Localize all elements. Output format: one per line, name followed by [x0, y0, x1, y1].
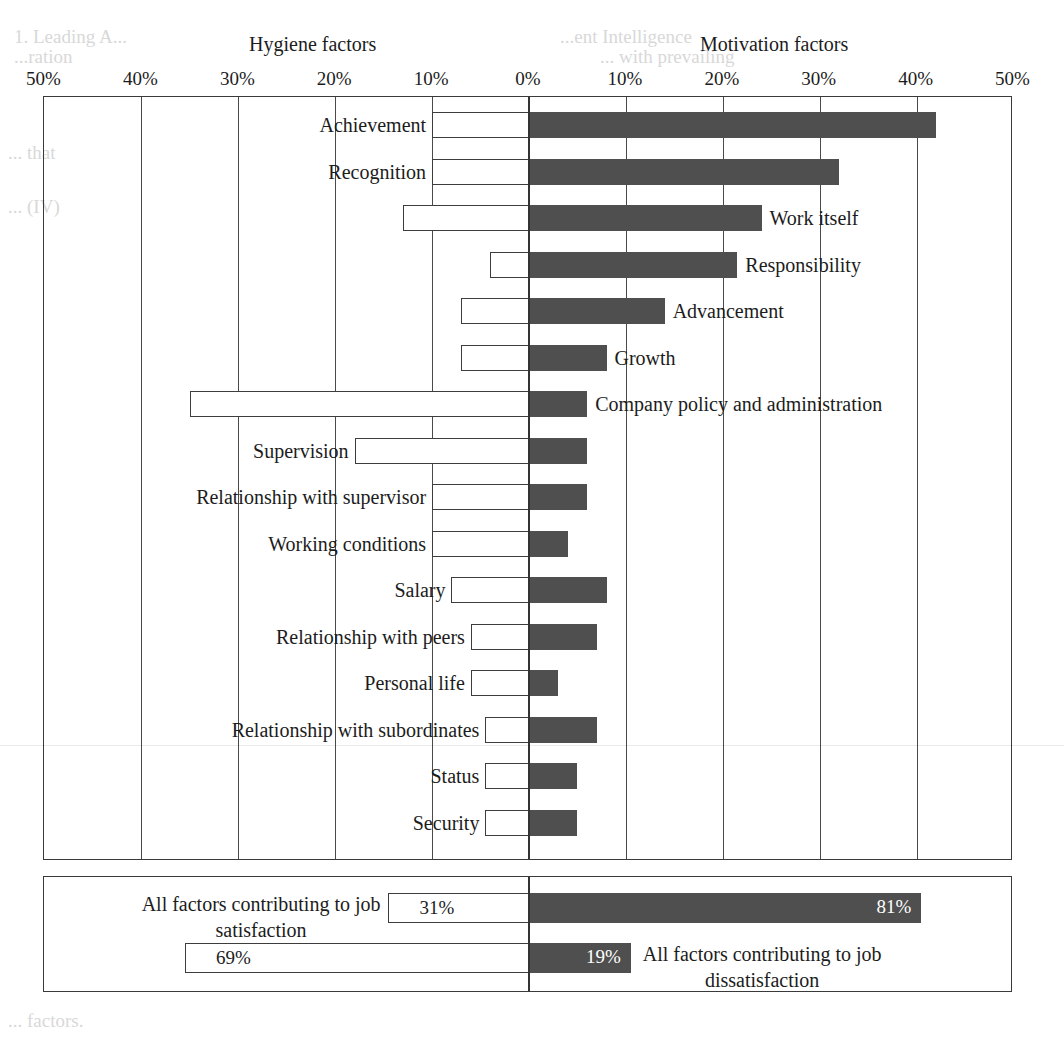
hygiene-bar: [451, 577, 529, 603]
motivation-bar: [529, 438, 587, 464]
hygiene-bar: [432, 531, 529, 557]
motivation-bar: [529, 205, 762, 231]
hygiene-bar: [432, 159, 529, 185]
summary-label-line-2: satisfaction: [142, 917, 381, 943]
row-label: Company policy and administration: [595, 391, 882, 417]
axis-tick-label: 20%: [317, 68, 352, 90]
hygiene-bar: [190, 391, 529, 417]
summary-label-line-1: All factors contributing to job: [643, 941, 882, 967]
row-label: Recognition: [328, 159, 426, 185]
row-label: Salary: [394, 577, 445, 603]
summary-zero-line: [528, 877, 530, 991]
motivation-bar: [529, 624, 597, 650]
axis-tick-label: 30%: [801, 68, 836, 90]
motivation-bar: [529, 391, 587, 417]
axis-tick-label: 50%: [995, 68, 1030, 90]
hygiene-bar: [485, 717, 529, 743]
summary-motivation-bar: 81%: [529, 893, 921, 923]
row-label: Relationship with peers: [276, 624, 465, 650]
motivation-bar: [529, 159, 839, 185]
axis-tick-label: 50%: [26, 68, 61, 90]
bleed-text-b: ...ent Intelligence: [560, 26, 692, 48]
hygiene-factors-title: Hygiene factors: [249, 33, 376, 56]
row-label: Growth: [615, 345, 676, 371]
summary-box: 31%81%All factors contributing to jobsat…: [43, 876, 1012, 992]
summary-row-label: All factors contributing to jobdissatisf…: [643, 941, 882, 993]
hygiene-bar: [432, 112, 529, 138]
row-label: Security: [413, 810, 480, 836]
hygiene-bar: [403, 205, 529, 231]
row-label: Work itself: [770, 205, 859, 231]
hygiene-bar: [485, 763, 529, 789]
summary-hygiene-bar: 31%: [388, 893, 529, 923]
motivation-bar: [529, 484, 587, 510]
axis-tick-label: 10%: [607, 68, 642, 90]
zero-axis-line: [528, 97, 530, 859]
hygiene-bar: [485, 810, 529, 836]
hygiene-bar: [490, 252, 529, 278]
motivation-bar: [529, 112, 936, 138]
hygiene-bar: [471, 624, 529, 650]
chart-plot-area: AchievementRecognitionWork itselfRespons…: [43, 96, 1012, 860]
motivation-bar: [529, 345, 607, 371]
motivation-bar: [529, 298, 665, 324]
row-label: Relationship with subordinates: [232, 717, 480, 743]
motivation-bar: [529, 810, 577, 836]
axis-tick-label: 30%: [220, 68, 255, 90]
summary-label-line-2: dissatisfaction: [643, 967, 882, 993]
bleed-text-c: ...ration: [14, 46, 73, 68]
hygiene-bar: [461, 345, 529, 371]
summary-row-label: All factors contributing to jobsatisfact…: [142, 891, 381, 943]
summary-hygiene-bar: 69%: [185, 943, 529, 973]
motivation-bar: [529, 531, 568, 557]
axis-tick-label: 0%: [515, 68, 540, 90]
hygiene-bar: [471, 670, 529, 696]
row-label: Advancement: [673, 298, 784, 324]
motivation-bar: [529, 577, 607, 603]
row-label: Achievement: [319, 112, 426, 138]
row-label: Personal life: [364, 670, 465, 696]
summary-motivation-bar: 19%: [529, 943, 631, 973]
bleed-text-a: 1. Leading A...: [14, 26, 127, 48]
hygiene-bar: [432, 484, 529, 510]
motivation-bar: [529, 252, 737, 278]
x-axis: 50%40%30%20%10%0%10%20%30%40%50%: [0, 68, 1064, 90]
motivation-bar: [529, 763, 577, 789]
axis-tick-label: 40%: [898, 68, 933, 90]
hygiene-bar: [355, 438, 529, 464]
row-label: Relationship with supervisor: [196, 484, 426, 510]
hygiene-bar: [461, 298, 529, 324]
row-label: Working conditions: [268, 531, 426, 557]
summary-label-line-1: All factors contributing to job: [142, 891, 381, 917]
row-label: Supervision: [253, 438, 349, 464]
row-label: Responsibility: [745, 252, 861, 278]
axis-tick-label: 40%: [123, 68, 158, 90]
axis-tick-label: 10%: [414, 68, 449, 90]
motivation-bar: [529, 717, 597, 743]
axis-tick-label: 20%: [704, 68, 739, 90]
bleed-text-g: ... factors.: [8, 1010, 83, 1032]
motivation-bar: [529, 670, 558, 696]
motivation-factors-title: Motivation factors: [700, 33, 848, 56]
row-label: Status: [431, 763, 480, 789]
